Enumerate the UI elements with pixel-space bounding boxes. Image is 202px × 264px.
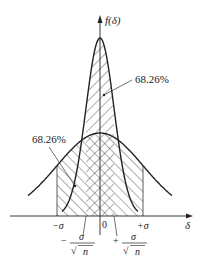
narrow-annotation-dot [103,94,105,96]
normal-distribution-diagram: f(δ) δ 68.26% 68.26% 0 −σ +σ − σ √ n + σ… [0,0,202,264]
narrow-annotation-label: 68.26% [135,73,169,85]
plus-sigma-over-sqrt-n-label: + σ √ n [113,231,147,257]
svg-text:√: √ [71,245,77,256]
svg-text:n: n [83,246,88,257]
svg-text:√: √ [123,245,129,256]
plus-sigma-label: +σ [137,220,150,231]
x-axis-label: δ [185,219,191,231]
minus-sigma-over-sqrt-n-label: − σ √ n [61,231,95,257]
minus-sigma-label: −σ [52,220,65,231]
x-axis-arrow-icon [186,214,193,219]
svg-text:n: n [135,246,140,257]
origin-label: 0 [102,219,107,230]
svg-text:+: + [113,235,119,246]
wide-annotation-label: 68.26% [32,133,66,145]
svg-text:σ: σ [131,231,137,242]
y-axis-label: f(δ) [105,14,121,27]
wide-annotation-dot [74,185,76,187]
svg-text:σ: σ [79,231,85,242]
svg-text:−: − [61,235,67,246]
plus-sigma-sqrt-n-leader [114,216,117,236]
y-axis-arrow-icon [98,15,103,23]
